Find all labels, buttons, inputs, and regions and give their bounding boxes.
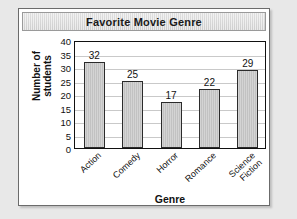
y-axis-tick-label: 35	[45, 50, 71, 59]
bar-slot: 32	[84, 42, 105, 148]
chart-title: Favorite Movie Genre	[86, 16, 202, 28]
chart-title-bar: Favorite Movie Genre	[22, 12, 266, 31]
bar[interactable]	[237, 70, 258, 148]
bar[interactable]	[122, 81, 143, 149]
y-axis-tick-label: 5	[45, 131, 71, 140]
y-axis-tick-label: 20	[45, 91, 71, 100]
y-axis-tick-label: 0	[45, 145, 71, 154]
bar-slot: 29	[237, 42, 258, 148]
chart-card: Favorite Movie Genre Number of students …	[18, 8, 270, 206]
plot-wrapper: Number of students 0510152025303540 3225…	[19, 33, 271, 207]
bar[interactable]	[199, 89, 220, 148]
y-axis-tick-label: 15	[45, 104, 71, 113]
y-axis-tick-label: 10	[45, 118, 71, 127]
x-axis-title: Genre	[74, 193, 266, 205]
bar-value-label: 32	[72, 50, 117, 61]
bar-value-label: 22	[187, 77, 232, 88]
bar[interactable]	[161, 102, 182, 148]
bar-value-label: 17	[149, 90, 194, 101]
bar-slot: 22	[199, 42, 220, 148]
x-axis-tick-labels: ActionComedyHorrorRomanceScience Fiction	[74, 149, 266, 195]
y-axis-tick-label: 30	[45, 64, 71, 73]
y-axis-tick-label: 25	[45, 77, 71, 86]
y-axis-tick-labels: 0510152025303540	[45, 33, 71, 149]
y-axis-tick-label: 40	[45, 37, 71, 46]
bar-slot: 17	[161, 42, 182, 148]
bar-value-label: 25	[110, 69, 155, 80]
bar[interactable]	[84, 62, 105, 148]
plot-area: 3225172229	[74, 41, 266, 149]
bar-slot: 25	[122, 42, 143, 148]
bars-layer: 3225172229	[75, 42, 265, 148]
bar-value-label: 29	[225, 58, 270, 69]
